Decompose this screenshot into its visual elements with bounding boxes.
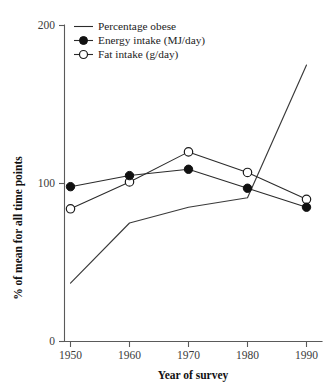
legend-open-circle-icon xyxy=(80,51,88,59)
y-tick-label-100: 100 xyxy=(38,177,56,189)
x-tick-label-1970: 1970 xyxy=(177,349,200,361)
y-tick-label-200: 200 xyxy=(38,19,56,31)
legend-filled-circle-icon xyxy=(80,37,88,45)
chart-figure: 200 100 0 1950 1960 1970 1980 1990 Year … xyxy=(0,0,330,390)
data-point-fat-intake-1990 xyxy=(302,195,310,203)
series-markers-energy-intake xyxy=(66,165,310,211)
y-tick-label-0: 0 xyxy=(49,335,55,347)
data-point-energy-intake-1990 xyxy=(302,203,310,211)
legend-label-percentage-obese: Percentage obese xyxy=(98,20,176,32)
data-point-energy-intake-1950 xyxy=(66,182,74,190)
data-point-fat-intake-1950 xyxy=(66,205,74,213)
x-tick-label-1990: 1990 xyxy=(295,349,318,361)
x-tick-label-1980: 1980 xyxy=(236,349,259,361)
data-point-energy-intake-1980 xyxy=(243,184,251,192)
legend-label-fat-intake: Fat intake (g/day) xyxy=(98,48,179,61)
x-tick-label-1950: 1950 xyxy=(59,349,82,361)
x-axis-title: Year of survey xyxy=(158,369,229,382)
line-chart: 200 100 0 1950 1960 1970 1980 1990 Year … xyxy=(0,0,330,390)
series-line-percentage-obese xyxy=(71,65,307,283)
data-point-energy-intake-1960 xyxy=(125,171,133,179)
series-line-energy-intake xyxy=(71,169,307,207)
x-tick-label-1960: 1960 xyxy=(118,349,141,361)
chart-legend: Percentage obese Energy intake (MJ/day) … xyxy=(74,20,205,61)
y-axis-title: % of mean for all time points xyxy=(12,156,25,300)
legend-label-energy-intake: Energy intake (MJ/day) xyxy=(98,34,205,47)
data-point-energy-intake-1970 xyxy=(184,165,192,173)
data-point-fat-intake-1970 xyxy=(184,148,192,156)
chart-axes xyxy=(59,25,322,347)
data-point-fat-intake-1980 xyxy=(243,168,251,176)
